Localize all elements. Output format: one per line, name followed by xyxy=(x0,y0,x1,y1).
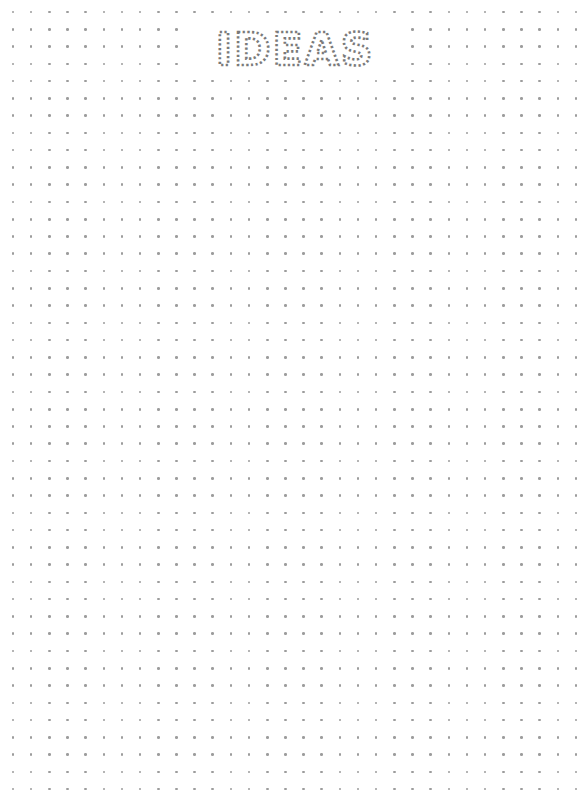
grid-dot xyxy=(84,45,87,48)
grid-dot xyxy=(448,45,451,48)
grid-dot xyxy=(84,373,87,376)
grid-dot xyxy=(411,719,414,722)
grid-dot xyxy=(411,11,414,14)
grid-dot xyxy=(302,546,305,549)
grid-dot xyxy=(393,615,396,618)
grid-dot xyxy=(230,736,233,739)
grid-dot xyxy=(84,391,87,394)
grid-dot xyxy=(557,563,560,566)
grid-dot xyxy=(375,80,378,83)
grid-dot xyxy=(393,771,396,774)
grid-dot xyxy=(502,132,505,135)
grid-dot xyxy=(466,11,469,14)
grid-dot xyxy=(230,753,233,756)
grid-dot xyxy=(84,684,87,687)
grid-dot xyxy=(12,45,15,48)
grid-dot xyxy=(375,771,378,774)
grid-dot xyxy=(248,183,251,186)
grid-dot xyxy=(520,63,523,66)
grid-dot xyxy=(393,183,396,186)
grid-dot xyxy=(357,460,360,463)
grid-dot xyxy=(484,753,487,756)
grid-dot xyxy=(48,702,51,705)
grid-dot xyxy=(48,63,51,66)
grid-dot xyxy=(157,494,160,497)
grid-dot xyxy=(48,391,51,394)
grid-dot xyxy=(339,442,342,445)
grid-dot xyxy=(30,736,33,739)
grid-dot xyxy=(211,702,214,705)
grid-dot xyxy=(175,477,178,480)
grid-dot xyxy=(466,304,469,307)
grid-dot xyxy=(466,598,469,601)
grid-dot xyxy=(84,477,87,480)
grid-dot xyxy=(66,702,69,705)
grid-dot xyxy=(48,788,51,791)
grid-dot xyxy=(538,356,541,359)
grid-dot xyxy=(575,408,578,411)
grid-dot xyxy=(484,45,487,48)
grid-dot xyxy=(411,477,414,480)
grid-dot xyxy=(429,529,432,532)
grid-dot xyxy=(302,97,305,100)
grid-dot xyxy=(429,425,432,428)
grid-dot xyxy=(157,546,160,549)
grid-dot xyxy=(411,753,414,756)
grid-dot xyxy=(429,477,432,480)
grid-dot xyxy=(157,408,160,411)
grid-dot xyxy=(448,771,451,774)
grid-dot xyxy=(84,512,87,515)
grid-dot xyxy=(302,80,305,83)
grid-dot xyxy=(248,667,251,670)
grid-dot xyxy=(320,684,323,687)
grid-dot xyxy=(193,235,196,238)
grid-dot xyxy=(375,114,378,117)
grid-dot xyxy=(12,546,15,549)
grid-dot xyxy=(157,304,160,307)
grid-dot xyxy=(103,114,106,117)
grid-dot xyxy=(157,149,160,152)
title-area: IDEAS xyxy=(186,21,404,76)
grid-dot xyxy=(121,287,124,290)
grid-dot xyxy=(466,252,469,255)
grid-dot xyxy=(12,322,15,325)
grid-dot xyxy=(66,287,69,290)
grid-dot xyxy=(48,684,51,687)
grid-dot xyxy=(230,512,233,515)
grid-dot xyxy=(393,546,396,549)
grid-dot xyxy=(302,632,305,635)
grid-dot xyxy=(12,615,15,618)
grid-dot xyxy=(103,201,106,204)
grid-dot xyxy=(248,425,251,428)
grid-dot xyxy=(48,218,51,221)
grid-dot xyxy=(502,667,505,670)
grid-dot xyxy=(211,632,214,635)
grid-dot xyxy=(48,80,51,83)
grid-dot xyxy=(12,339,15,342)
grid-dot xyxy=(30,11,33,14)
grid-dot xyxy=(139,287,142,290)
grid-dot xyxy=(466,218,469,221)
grid-dot xyxy=(211,391,214,394)
grid-dot xyxy=(121,788,124,791)
grid-dot xyxy=(393,598,396,601)
grid-dot xyxy=(339,719,342,722)
grid-dot xyxy=(320,719,323,722)
grid-dot xyxy=(520,356,523,359)
grid-dot xyxy=(12,425,15,428)
grid-dot xyxy=(466,114,469,117)
grid-dot xyxy=(466,477,469,480)
grid-dot xyxy=(393,425,396,428)
grid-dot xyxy=(66,28,69,31)
grid-dot xyxy=(248,408,251,411)
grid-dot xyxy=(84,788,87,791)
grid-dot xyxy=(393,563,396,566)
grid-dot xyxy=(466,581,469,584)
grid-dot xyxy=(266,512,269,515)
grid-dot xyxy=(103,373,106,376)
grid-dot xyxy=(429,736,432,739)
grid-dot xyxy=(66,598,69,601)
grid-dot xyxy=(502,494,505,497)
grid-dot xyxy=(12,788,15,791)
grid-dot xyxy=(466,408,469,411)
